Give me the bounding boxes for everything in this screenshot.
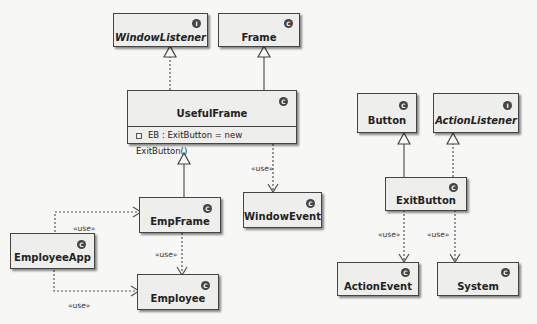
use-label-windowevent: «use» [251, 164, 273, 173]
class-exitbutton[interactable]: C ExitButton [385, 177, 467, 211]
class-name: ActionEvent [338, 281, 418, 292]
class-name: EmployeeApp [11, 252, 94, 263]
class-icon: C [77, 240, 86, 249]
class-name: Employee [138, 293, 218, 304]
private-field-icon [136, 133, 142, 139]
use-label-employee: «use» [155, 250, 177, 259]
class-name: ExitButton [386, 195, 466, 206]
class-actionevent[interactable]: C ActionEvent [337, 262, 419, 296]
use-label-empframe: «use» [73, 224, 95, 233]
class-employeeapp[interactable]: C EmployeeApp [10, 233, 95, 269]
class-icon: C [449, 183, 458, 192]
class-icon: C [501, 268, 510, 277]
class-icon: C [203, 204, 212, 213]
class-button[interactable]: C Button [357, 93, 417, 133]
class-name: WindowEvent [244, 211, 321, 222]
use-label-actionevent: «use» [378, 230, 400, 239]
class-name: System [438, 281, 518, 292]
use-label-system: «use» [427, 230, 449, 239]
class-system[interactable]: C System [437, 262, 519, 296]
interface-icon: I [192, 19, 201, 28]
dependency-employeeapp-empframe [55, 212, 140, 232]
class-icon: C [201, 281, 210, 290]
interface-icon: I [503, 101, 512, 110]
class-name: EmpFrame [140, 216, 220, 227]
class-name: Frame [219, 32, 299, 43]
class-icon: C [284, 19, 293, 28]
class-name: UsefulFrame [128, 108, 296, 119]
class-employee[interactable]: C Employee [137, 274, 219, 310]
class-icon: C [279, 97, 288, 106]
class-icon: C [399, 101, 408, 110]
class-frame[interactable]: C Frame [218, 13, 300, 47]
class-icon: C [401, 268, 410, 277]
class-icon: C [306, 199, 315, 208]
class-windowevent[interactable]: C WindowEvent [243, 192, 322, 228]
class-empframe[interactable]: C EmpFrame [139, 197, 221, 233]
dependency-employeeapp-employee [54, 270, 138, 291]
attribute-row: EB : ExitButton = new ExitButton() [128, 126, 296, 143]
class-name: WindowListener [114, 32, 207, 43]
class-windowlistener[interactable]: I WindowListener [113, 13, 208, 47]
class-name: Button [358, 115, 416, 126]
class-actionlistener[interactable]: I ActionListener [433, 93, 519, 133]
class-usefulframe[interactable]: C UsefulFrame EB : ExitButton = new Exit… [127, 90, 297, 144]
class-name: ActionListener [434, 115, 518, 126]
use-label-employeeapp-employee: «use» [68, 301, 90, 310]
